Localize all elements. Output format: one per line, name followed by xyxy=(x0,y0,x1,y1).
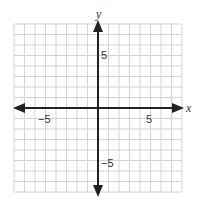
x-axis-label: x xyxy=(185,101,192,115)
x-tick-label-pos5: 5 xyxy=(146,113,152,125)
y-axis-label: y xyxy=(95,7,102,21)
x-axis-left-arrow-icon xyxy=(13,103,25,113)
y-axis-up-arrow-icon xyxy=(93,20,103,32)
y-tick-label-neg5: −5 xyxy=(101,157,114,169)
coordinate-plane: y x −5 5 5 −5 xyxy=(0,0,197,203)
y-tick-label-pos5: 5 xyxy=(101,49,107,61)
y-axis-down-arrow-icon xyxy=(93,185,103,197)
x-tick-label-neg5: −5 xyxy=(38,113,51,125)
